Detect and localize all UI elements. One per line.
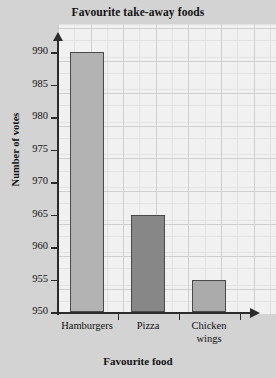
bar [131, 215, 165, 313]
y-tick-mark [51, 280, 58, 282]
y-tick-label: 990 [0, 45, 48, 56]
y-tick-mark [51, 85, 58, 87]
y-tick-mark [51, 150, 58, 152]
y-axis-line [57, 40, 59, 315]
plot-area [58, 24, 276, 314]
y-axis-arrow-icon [53, 32, 63, 41]
x-tick-mark [240, 313, 242, 320]
bar [192, 280, 226, 313]
x-category-label-line: wings [172, 333, 246, 346]
y-tick-label: 970 [0, 175, 48, 186]
y-tick-mark [51, 215, 58, 217]
x-axis-line [57, 312, 252, 314]
bar-chart-figure: Favourite take-away foods 99098598097597… [0, 0, 276, 378]
y-tick-mark [51, 312, 58, 314]
x-tick-mark [118, 313, 120, 320]
y-axis-title: Number of votes [10, 90, 21, 210]
y-tick-label: 960 [0, 240, 48, 251]
y-tick-mark [51, 117, 58, 119]
x-axis-title: Favourite food [0, 355, 276, 367]
y-tick-label: 955 [0, 273, 48, 284]
y-tick-mark [51, 182, 58, 184]
y-tick-mark [51, 247, 58, 249]
y-tick-label: 965 [0, 208, 48, 219]
x-axis-arrow-icon [250, 308, 260, 318]
bar [70, 52, 104, 312]
y-tick-label: 950 [0, 305, 48, 316]
y-tick-label: 980 [0, 110, 48, 121]
x-category-label-line: Chicken [172, 320, 246, 333]
y-tick-mark [51, 52, 58, 54]
chart-title: Favourite take-away foods [0, 6, 276, 18]
x-tick-mark [179, 313, 181, 320]
x-category-label: Chickenwings [172, 320, 246, 345]
y-tick-label: 985 [0, 78, 48, 89]
y-tick-label: 975 [0, 143, 48, 154]
